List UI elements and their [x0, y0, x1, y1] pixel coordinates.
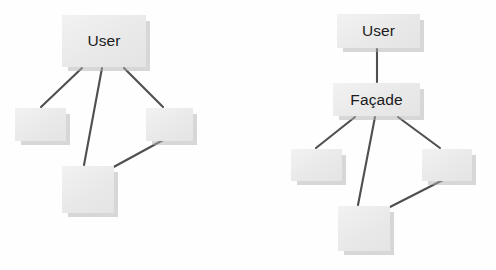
node-left-sub-1[interactable] — [15, 108, 66, 141]
node-right-sub-3[interactable] — [338, 206, 390, 251]
node-right-user[interactable]: User — [337, 14, 420, 48]
node-right-sub-1[interactable] — [291, 149, 342, 181]
node-right-sub-2[interactable] — [422, 149, 472, 181]
node-label-left-user: User — [87, 33, 120, 49]
diagram-canvas: User UserFaçade — [0, 0, 496, 270]
node-left-user[interactable]: User — [62, 15, 146, 67]
node-left-sub-3[interactable] — [62, 166, 114, 213]
node-label-right-facade: Façade — [350, 92, 402, 108]
node-label-right-user: User — [362, 23, 395, 39]
facade-pattern-diagram: UserFaçade — [248, 0, 496, 270]
node-right-facade[interactable]: Façade — [333, 83, 420, 116]
node-left-sub-2[interactable] — [146, 108, 193, 141]
direct-access-diagram: User — [0, 0, 248, 270]
